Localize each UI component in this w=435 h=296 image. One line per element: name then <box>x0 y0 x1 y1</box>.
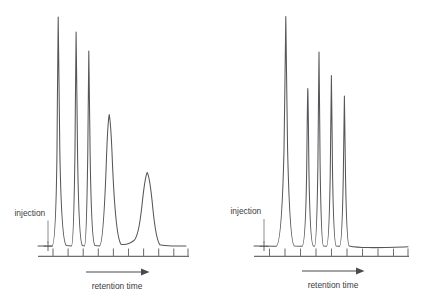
chromatogram-panel-left: injection retention <box>0 0 217 296</box>
injection-label-left: injection <box>15 208 46 218</box>
time-axis-ticks-right <box>270 249 409 257</box>
chromatogram-trace-left <box>38 17 186 246</box>
retention-time-label-right: retention time <box>308 280 359 290</box>
chromatogram-panel-right: injection retention <box>218 0 435 296</box>
injection-label-right: injection <box>231 206 262 216</box>
retention-time-arrow-right <box>302 268 365 275</box>
retention-time-arrow-left <box>86 269 150 276</box>
chromatogram-trace-right <box>254 17 408 248</box>
time-axis-ticks-left <box>53 249 188 257</box>
retention-time-label-left: retention time <box>92 281 143 291</box>
chromatogram-figure: injection retention <box>0 0 435 296</box>
